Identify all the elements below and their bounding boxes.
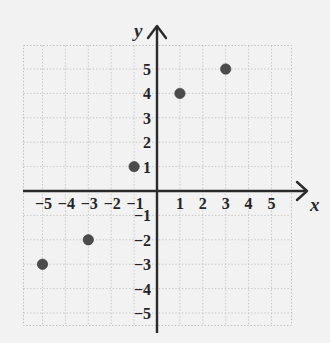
x-tick-label: −2 (104, 195, 121, 212)
data-point (129, 161, 139, 171)
scatter-plot: −5−4−3−2−112345 54321−1−2−3−4−5 x y (0, 0, 330, 343)
y-tick-label: −2 (134, 232, 151, 249)
x-tick-label: 1 (176, 195, 184, 212)
y-tick-label: 1 (143, 159, 151, 176)
y-axis-name-label: y (132, 20, 143, 41)
y-tick-label: 3 (143, 110, 151, 127)
x-tick-label: 4 (245, 195, 253, 212)
x-tick-label: −4 (58, 195, 75, 212)
x-tick-label: −3 (81, 195, 98, 212)
y-tick-label: 5 (143, 61, 151, 78)
x-tick-label: 5 (268, 195, 276, 212)
y-tick-label: −5 (134, 305, 151, 322)
y-tick-label: −3 (134, 256, 151, 273)
coordinate-plane-figure: −5−4−3−2−112345 54321−1−2−3−4−5 x y (0, 0, 330, 343)
data-point (175, 88, 185, 98)
y-tick-label: −4 (134, 281, 151, 298)
x-tick-label: −5 (35, 195, 52, 212)
figure-background (0, 0, 330, 343)
data-point (83, 235, 93, 245)
x-axis-name-label: x (309, 194, 320, 215)
y-tick-label: 4 (143, 85, 151, 102)
x-tick-label: 3 (222, 195, 230, 212)
data-point (221, 64, 231, 74)
y-tick-label: −1 (134, 207, 151, 224)
y-tick-label: 2 (143, 134, 151, 151)
x-tick-label: 2 (199, 195, 207, 212)
data-point (37, 259, 47, 269)
